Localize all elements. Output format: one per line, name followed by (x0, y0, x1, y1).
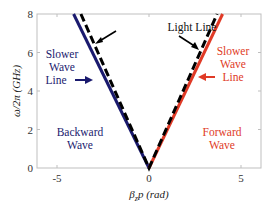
y-tick-label: 0 (28, 162, 34, 174)
annotation-text: Wave (220, 58, 246, 70)
y-tick-label: 2 (28, 124, 34, 136)
x-axis-label: βzp (rad) (128, 188, 169, 203)
annotation-text: Wave (209, 139, 235, 151)
annotation-text: Forward (203, 126, 242, 138)
y-tick-label: 4 (28, 85, 34, 97)
annotation-text: Slower (46, 48, 79, 60)
y-tick-label: 6 (28, 47, 34, 59)
annotation-text: Line (222, 71, 243, 83)
y-axis-label: ω/2π (GHz) (10, 65, 23, 117)
x-tick-label: 5 (238, 172, 244, 184)
annotation-text: Backward (57, 126, 104, 138)
dispersion-chart: -5 0 5 0 2 4 6 8 ω/2π (GHz) βzp (rad) Li… (0, 0, 273, 207)
x-axis-label-rest: p (rad) (137, 188, 169, 201)
light-line-label: Light Line (168, 21, 217, 34)
x-tick-label: -5 (52, 172, 62, 184)
annotation-text: Slower (217, 45, 250, 57)
annotation-text: Line (45, 74, 66, 86)
annotation-text: Wave (67, 139, 93, 151)
annotation-text: Wave (49, 61, 75, 73)
y-tick-label: 8 (28, 8, 34, 20)
x-tick-label: 0 (146, 172, 152, 184)
